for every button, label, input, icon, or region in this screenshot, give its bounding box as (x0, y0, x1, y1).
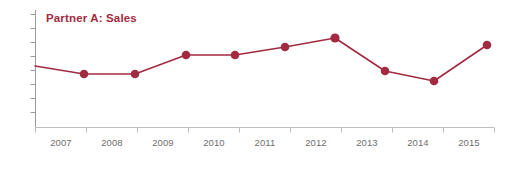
x-tick-label-2013: 2013 (356, 137, 378, 148)
data-point-marker (131, 70, 140, 79)
chart-background (0, 0, 511, 175)
data-point-marker (231, 51, 240, 60)
data-point-marker (430, 77, 439, 86)
x-tick-label-2012: 2012 (305, 137, 327, 148)
data-point-marker (281, 43, 290, 52)
x-tick-label-2010: 2010 (203, 137, 225, 148)
data-point-marker (381, 67, 390, 76)
data-point-marker (182, 51, 191, 60)
data-point-marker (330, 33, 339, 42)
data-point-marker (483, 41, 492, 50)
x-axis-tick-labels: 2007 2008 2009 2010 2011 2012 2013 2014 … (50, 137, 480, 148)
x-tick-label-2014: 2014 (407, 137, 429, 148)
x-tick-label-2007: 2007 (50, 137, 72, 148)
line-chart-figure: Partner A: Sales 2007 2008 2009 2010 201… (0, 0, 511, 175)
chart-canvas: Partner A: Sales 2007 2008 2009 2010 201… (0, 0, 511, 175)
data-point-marker (80, 70, 89, 79)
chart-screenshot: Partner A: Sales 2007 2008 2009 2010 201… (0, 0, 511, 175)
x-tick-label-2008: 2008 (101, 137, 123, 148)
x-tick-label-2015: 2015 (458, 137, 480, 148)
x-tick-label-2009: 2009 (152, 137, 174, 148)
chart-title: Partner A: Sales (46, 12, 137, 24)
x-tick-label-2011: 2011 (255, 137, 276, 148)
